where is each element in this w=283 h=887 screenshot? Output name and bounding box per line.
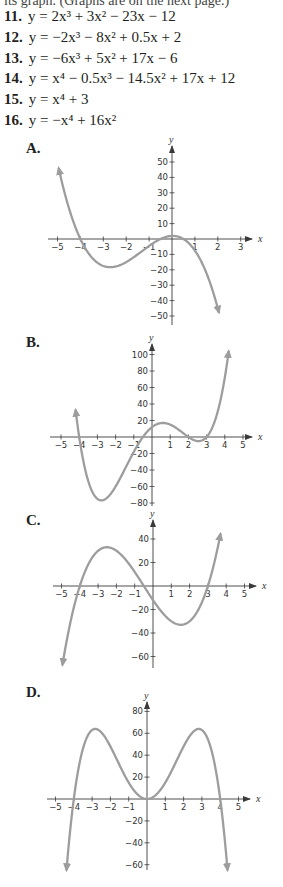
x-tick-label: −2	[104, 802, 117, 812]
graph-b: B. xy−5−4−3−2−11234510080604020−20−40−60…	[0, 328, 283, 510]
x-axis-label: x	[261, 580, 267, 591]
problem-number: 14.	[4, 70, 23, 86]
problem-equation: y = −x⁴ + 16x²	[29, 112, 117, 128]
y-axis-label: y	[148, 332, 154, 343]
y-tick-label: 50	[157, 157, 168, 167]
y-tick-label: 40	[157, 172, 168, 182]
x-tick-label: 4	[223, 589, 228, 599]
x-axis-label: x	[255, 793, 261, 804]
x-tick-label: −1	[122, 802, 135, 812]
y-tick-label: 20	[137, 416, 148, 426]
x-tick-label: −1	[128, 589, 141, 599]
x-tick-label: 3	[199, 802, 204, 812]
problem-15: 15.y = x⁴ + 3	[4, 89, 235, 110]
graph-b-plot: xy−5−4−3−2−11234510080604020−20−40−60−80	[0, 328, 283, 510]
y-tick-label: 20	[138, 558, 149, 568]
y-tick-label: 40	[132, 750, 143, 760]
x-tick-label: −3	[91, 440, 104, 450]
y-tick-label: −20	[131, 605, 149, 615]
y-tick-label: 60	[137, 383, 148, 393]
y-tick-label: 10	[157, 219, 168, 229]
y-tick-label: −60	[125, 860, 143, 870]
x-tick-label: −3	[97, 242, 110, 252]
polynomial-curve	[62, 534, 220, 665]
x-tick-label: 1	[167, 440, 172, 450]
y-tick-label: 20	[157, 203, 168, 213]
problem-12: 12.y = −2x³ − 8x² + 0.5x + 2	[4, 27, 235, 48]
y-tick-label: −40	[130, 465, 148, 475]
y-tick-label: −60	[131, 652, 149, 662]
y-tick-label: −40	[150, 296, 168, 306]
x-tick-label: −5	[49, 802, 62, 812]
y-tick-label: −20	[150, 265, 168, 275]
problem-number: 16.	[4, 112, 23, 128]
y-tick-label: −30	[150, 280, 168, 290]
x-tick-label: −2	[120, 242, 133, 252]
x-tick-label: 2	[186, 440, 191, 450]
x-tick-label: −2	[110, 589, 123, 599]
x-axis-label: x	[257, 431, 263, 442]
y-axis-label: y	[149, 508, 155, 519]
x-tick-label: 5	[236, 802, 241, 812]
x-tick-label: −3	[92, 589, 105, 599]
y-tick-label: −60	[130, 482, 148, 492]
problem-list: 11.y = 2x³ + 3x² − 23x − 12 12.y = −2x³ …	[4, 6, 235, 131]
x-tick-label: 1	[163, 802, 168, 812]
x-tick-label: 2	[181, 802, 186, 812]
x-tick-label: 1	[169, 589, 174, 599]
graph-a: A. xy−5−4−3−2−11235040302010−10−20−30−40…	[0, 128, 283, 328]
y-tick-label: 40	[137, 399, 148, 409]
y-tick-label: −10	[150, 249, 168, 259]
graph-c: C. xy−5−4−3−2−1123454020−20−40−60	[0, 510, 283, 682]
y-tick-label: 80	[137, 366, 148, 376]
x-tick-label: 3	[238, 242, 243, 252]
y-tick-label: 30	[157, 188, 168, 198]
x-axis-label: x	[257, 233, 263, 244]
y-axis-label: y	[168, 134, 174, 145]
x-tick-label: 5	[240, 440, 245, 450]
x-tick-label: 2	[215, 242, 220, 252]
problem-equation: y = −6x³ + 5x² + 17x − 6	[29, 50, 178, 66]
y-tick-label: −20	[125, 816, 143, 826]
problem-11: 11.y = 2x³ + 3x² − 23x − 12	[4, 6, 235, 27]
x-tick-label: −2	[109, 440, 122, 450]
x-tick-label: −5	[55, 440, 68, 450]
y-axis-label: y	[143, 690, 149, 701]
problem-14: 14.y = x⁴ − 0.5x³ − 14.5x² + 17x + 12	[4, 68, 235, 89]
problem-number: 15.	[4, 91, 23, 107]
problem-number: 13.	[4, 50, 23, 66]
problem-equation: y = 2x³ + 3x² − 23x − 12	[28, 8, 176, 24]
graph-d: D. xy−5−4−3−2−11234580604020−20−40−60	[0, 682, 283, 887]
graph-c-plot: xy−5−4−3−2−1123454020−20−40−60	[0, 510, 283, 682]
y-tick-label: 60	[132, 728, 143, 738]
y-tick-label: −40	[125, 838, 143, 848]
problem-number: 12.	[4, 29, 23, 45]
problem-number: 11.	[4, 8, 22, 24]
graph-d-plot: xy−5−4−3−2−11234580604020−20−40−60	[0, 682, 283, 887]
x-tick-label: −5	[51, 242, 64, 252]
problem-equation: y = x⁴ − 0.5x³ − 14.5x² + 17x + 12	[29, 70, 236, 86]
y-tick-label: −50	[150, 311, 168, 321]
x-tick-label: 2	[187, 589, 192, 599]
y-tick-label: 40	[138, 534, 149, 544]
problem-13: 13.y = −6x³ + 5x² + 17x − 6	[4, 48, 235, 69]
x-tick-label: 4	[222, 440, 227, 450]
y-tick-label: −80	[130, 498, 148, 508]
x-tick-label: 5	[242, 589, 247, 599]
graph-a-plot: xy−5−4−3−2−11235040302010−10−20−30−40−50	[0, 128, 283, 328]
problem-equation: y = −2x³ − 8x² + 0.5x + 2	[29, 29, 182, 45]
problem-equation: y = x⁴ + 3	[29, 91, 89, 107]
x-tick-label: −3	[86, 802, 99, 812]
x-tick-label: 3	[204, 440, 209, 450]
y-tick-label: 100	[132, 350, 148, 360]
y-tick-label: −40	[131, 628, 149, 638]
y-tick-label: 80	[132, 706, 143, 716]
x-tick-label: −5	[55, 589, 68, 599]
y-tick-label: 20	[132, 772, 143, 782]
